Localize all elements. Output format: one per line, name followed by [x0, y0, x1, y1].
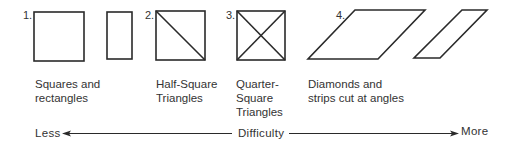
label-line: Triangles	[156, 91, 217, 105]
label-line: Quarter-	[236, 77, 283, 91]
square-shape	[34, 12, 84, 61]
diamond-shape	[308, 10, 425, 59]
strip-shape	[414, 10, 487, 58]
label-line: Square	[236, 91, 283, 105]
group-2-number: 2.	[145, 10, 154, 21]
label-line: strips cut at angles	[308, 91, 404, 105]
axis-less-label: Less	[35, 127, 61, 140]
axis-difficulty-label: Difficulty	[238, 127, 284, 140]
group-2-label: Half-Square Triangles	[156, 77, 217, 105]
difficulty-diagram: 1. 2. 3. 4. Squares and rectangles Half-…	[0, 0, 513, 154]
label-line: rectangles	[35, 91, 100, 105]
label-line: Triangles	[236, 105, 283, 119]
axis-more-label: More	[461, 125, 488, 138]
group-4-label: Diamonds and strips cut at angles	[308, 77, 404, 105]
label-line: Half-Square	[156, 77, 217, 91]
half-square-triangle-shape	[156, 11, 205, 60]
group-4-number: 4.	[336, 10, 345, 21]
rectangle-shape	[107, 12, 132, 59]
quarter-square-triangle-shape	[237, 11, 285, 60]
group-1-number: 1.	[23, 10, 32, 21]
group-1-label: Squares and rectangles	[35, 77, 100, 105]
label-line: Squares and	[35, 77, 100, 91]
group-3-number: 3.	[226, 10, 235, 21]
label-line: Diamonds and	[308, 77, 404, 91]
group-3-label: Quarter- Square Triangles	[236, 77, 283, 119]
